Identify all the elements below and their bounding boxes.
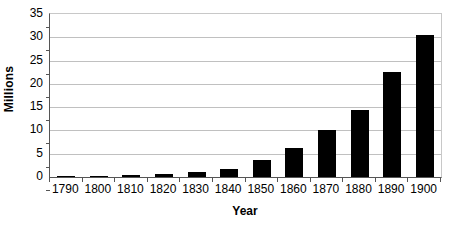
x-axis-title: Year [49,205,441,217]
bar [253,160,271,177]
x-axis-tick-label: 1880 [345,183,372,195]
y-axis-tick-labels: 05101520253035 [18,0,46,183]
bar-series [50,14,441,177]
x-axis-tick-label: 1900 [410,183,437,195]
x-axis-tick-mark [179,177,180,182]
x-axis-tick-mark [147,177,148,182]
x-axis-tick-label: 1800 [85,183,112,195]
y-axis-tick-label: 35 [30,7,43,19]
x-axis-tick-mark [245,177,246,182]
bar [383,72,401,177]
x-axis-tick-mark [407,177,408,182]
y-axis-tick-label: 25 [30,54,43,66]
y-axis-tick-label: 20 [30,77,43,89]
y-axis-tick-label: 30 [30,30,43,42]
x-axis-tick-label: 1860 [280,183,307,195]
x-axis-tick-labels: 1790180018101820183018401850186018701880… [49,183,441,201]
x-axis-tick-label: 1870 [313,183,340,195]
y-axis-tick-label: 0 [36,170,43,182]
y-axis-tick-label: 10 [30,123,43,135]
x-axis-tick-label: 1890 [378,183,405,195]
bar [416,35,434,178]
bar [285,148,303,177]
x-axis-tick-mark [49,177,50,182]
x-axis-tick-label: 1830 [182,183,209,195]
x-axis-tick-mark [375,177,376,182]
y-axis-tick-label: 15 [30,100,43,112]
y-axis-title: Millions [0,0,18,178]
x-axis-tick-label: 1820 [150,183,177,195]
x-axis-tick-mark [277,177,278,182]
bar [318,130,336,177]
x-axis-tick-mark [114,177,115,182]
bar [220,169,238,177]
x-axis-tick-mark [342,177,343,182]
x-axis-tick-mark [440,177,441,182]
x-axis-tick-label: 1810 [117,183,144,195]
y-axis-tick-label: 5 [36,147,43,159]
x-axis-tick-mark [212,177,213,182]
bar [351,110,369,177]
x-axis-tick-mark [82,177,83,182]
x-axis-tick-mark [310,177,311,182]
plot-area [49,13,442,178]
x-axis-tick-label: 1850 [247,183,274,195]
x-axis-tick-label: 1790 [52,183,79,195]
bar-chart: Millions 05101520253035 1790180018101820… [0,0,450,233]
y-axis-title-text: Millions [3,66,15,112]
x-axis-tick-label: 1840 [215,183,242,195]
